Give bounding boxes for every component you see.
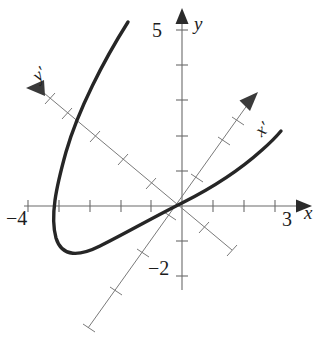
x-prime-tick xyxy=(83,324,95,332)
x-axis-tick-label-neg4: −4 xyxy=(6,208,27,228)
arrowhead-up-right-icon xyxy=(240,92,259,111)
y-axis-tick-label-5: 5 xyxy=(152,20,162,40)
y-axis-tick-label-neg2: −2 xyxy=(148,258,169,278)
x-prime-axis-group xyxy=(83,92,258,332)
parabola-curve xyxy=(54,22,281,253)
x-axis-label: x xyxy=(304,203,312,222)
rotated-axes-conic-figure: 5 y 3 x −4 −2 x′ y′ xyxy=(0,0,329,345)
x-prime-axis-line xyxy=(88,104,248,328)
y-axis-group xyxy=(176,8,189,290)
arrowhead-up-icon xyxy=(176,8,189,24)
y-axis-label: y xyxy=(194,14,202,33)
plot-canvas xyxy=(0,0,329,345)
conic-curve-group xyxy=(54,22,281,253)
x-axis-tick-label-3: 3 xyxy=(282,209,292,229)
y-prime-axis-line xyxy=(38,88,232,250)
x-prime-tick-group xyxy=(83,117,244,332)
